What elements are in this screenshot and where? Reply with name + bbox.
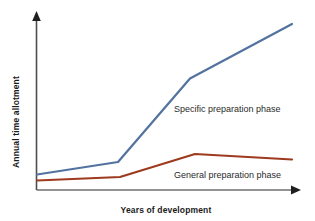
chart-container: Annual time allotment Years of developme… [0,0,315,221]
series-label-general-preparation-phase: General preparation phase [174,170,281,180]
series-label-specific-preparation-phase: Specific preparation phase [174,104,281,114]
y-axis-title: Annual time allotment [11,76,21,168]
x-axis-title: Years of development [121,205,212,215]
line-chart: Annual time allotment Years of developme… [0,0,315,221]
